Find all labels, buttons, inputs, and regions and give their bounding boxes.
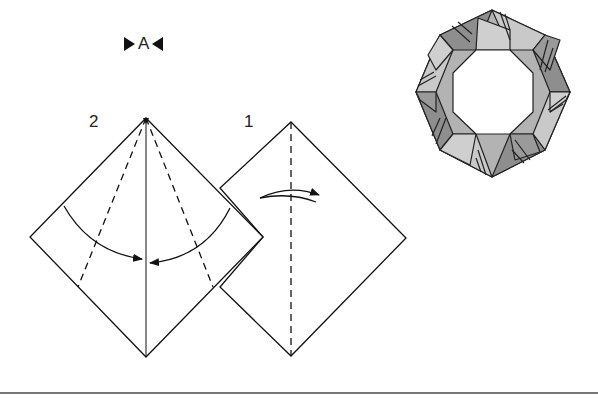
step-2-diagram [30,118,263,357]
fold-arrow-back [260,196,316,202]
finished-octagon-ring [416,10,570,177]
bottom-divider [0,392,598,394]
diagram-canvas [0,0,598,398]
